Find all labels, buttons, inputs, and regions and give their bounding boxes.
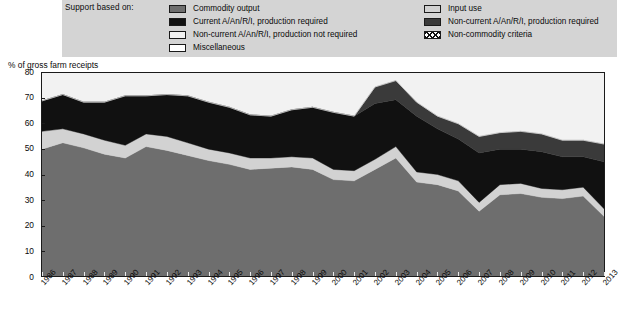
y-axis-tick-label: 80 xyxy=(6,68,34,76)
plot-frame xyxy=(41,72,605,277)
y-axis-tick-mark xyxy=(41,175,45,176)
y-axis-tick-label: 40 xyxy=(6,170,34,178)
y-axis-tick-mark xyxy=(41,123,45,124)
y-axis-tick-label: 50 xyxy=(6,144,34,152)
y-axis-tick-label: 10 xyxy=(6,247,34,255)
y-axis-tick-label: 20 xyxy=(6,221,34,229)
y-axis-tick-mark xyxy=(41,226,45,227)
y-axis-tick-label: 0 xyxy=(6,273,34,281)
y-axis-tick-label: 30 xyxy=(6,196,34,204)
y-axis-tick-mark xyxy=(41,251,45,252)
y-axis-tick-mark xyxy=(41,149,45,150)
y-axis-tick-label: 60 xyxy=(6,119,34,127)
y-axis-tick-label: 70 xyxy=(6,93,34,101)
y-axis-tick-mark xyxy=(41,98,45,99)
stacked-area-chart xyxy=(42,73,604,276)
y-axis-tick-mark xyxy=(41,200,45,201)
